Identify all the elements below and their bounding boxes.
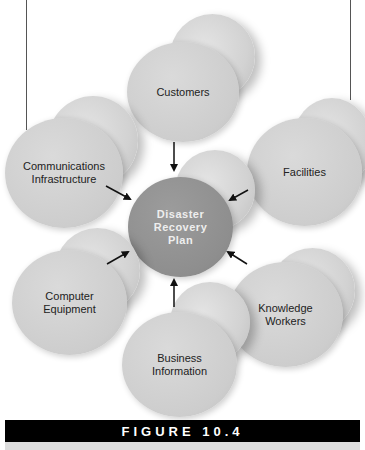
arrow-communications [106,186,130,199]
caption-underbar [5,442,360,450]
figure-caption-bar: FIGURE 10.4 [5,420,360,442]
arrow-knowledge-workers [228,252,247,264]
arrow-computer-equipment [107,252,128,264]
arrows [0,0,365,450]
arrow-facilities [230,190,248,200]
figure-caption: FIGURE 10.4 [121,424,243,439]
